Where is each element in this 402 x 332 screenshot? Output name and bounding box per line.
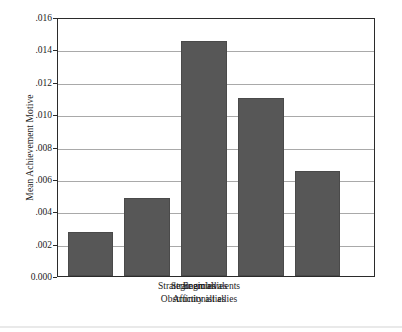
y-axis-tick-label: .012 <box>8 78 52 88</box>
page-bottom-rule <box>0 326 402 328</box>
x-axis-tick-label: Obstructionist allies <box>0 294 400 305</box>
y-axis-tick-label: .010 <box>8 110 52 120</box>
y-axis-tick-label: .008 <box>8 143 52 153</box>
plot-area <box>57 18 375 277</box>
bar <box>181 41 226 276</box>
y-axis-tick-mark <box>53 277 57 278</box>
bar-chart-figure: Mean Achievement Motive 0.000.002.004.00… <box>0 0 402 332</box>
bar <box>238 98 283 276</box>
bar <box>124 198 169 276</box>
y-axis-tick-label: .006 <box>8 175 52 185</box>
x-axis-tick-label: Strategic ambivalents <box>0 281 400 292</box>
y-axis-tick-label: .016 <box>8 13 52 23</box>
y-axis-tick-label: .014 <box>8 45 52 55</box>
bar <box>68 232 113 276</box>
y-axis-tick-label: .004 <box>8 207 52 217</box>
bar <box>295 171 340 276</box>
y-axis-tick-label: .002 <box>8 240 52 250</box>
